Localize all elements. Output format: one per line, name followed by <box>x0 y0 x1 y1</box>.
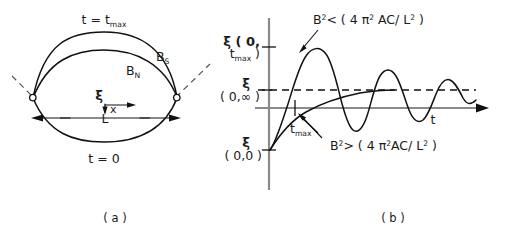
xi-arrow-head <box>127 102 136 108</box>
panel-b: B2< ( 4 π2 AC/ L2 ) B2> ( 4 π2AC/ L2 ) ξ… <box>220 12 489 225</box>
panel-a: t = tmax t = 0 BS BN ξ x L ( a ) <box>12 12 210 225</box>
label-t-max-state: t = tmax <box>82 12 127 29</box>
pin-guide-left-dashed <box>12 76 33 97</box>
length-arrow-right <box>169 114 181 121</box>
caption-panel-b: ( b ) <box>381 211 405 225</box>
label-bs: BS <box>156 49 170 66</box>
annotation-overdamped: B2> ( 4 π2AC/ L2 ) <box>330 138 437 153</box>
pin-right-icon <box>174 94 180 100</box>
label-length-l: L <box>102 111 109 126</box>
figure-svg: t = tmax t = 0 BS BN ξ x L ( a ) <box>0 0 512 241</box>
pin-left-icon <box>30 94 36 100</box>
x-axis-arrow <box>476 103 489 112</box>
y-label-infinity-line2: ( 0,∞ ) <box>220 89 260 104</box>
annotation-underdamped: B2< ( 4 π2 AC/ L2 ) <box>313 12 424 27</box>
x-axis-label: t <box>431 112 436 127</box>
label-xi-displacement: ξ <box>95 88 103 103</box>
pin-guide-right-dashed <box>176 64 210 97</box>
y-label-zero-line2: ( 0,0 ) <box>224 148 262 163</box>
label-axis-x: x <box>110 103 117 116</box>
length-arrow-left <box>31 114 43 121</box>
label-t-zero-state: t = 0 <box>88 151 119 166</box>
label-bn: BN <box>126 63 140 80</box>
leader-underdamped <box>303 30 318 48</box>
figure-root: t = tmax t = 0 BS BN ξ x L ( a ) <box>0 0 512 241</box>
caption-panel-a: ( a ) <box>103 211 126 225</box>
